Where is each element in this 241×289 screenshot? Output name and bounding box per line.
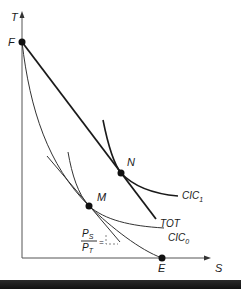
label-e: E xyxy=(158,262,166,274)
label-m: M xyxy=(97,191,107,203)
price-numerator: PS xyxy=(82,228,94,240)
label-cic0: CIC0 xyxy=(168,232,189,245)
point-m xyxy=(86,203,93,210)
s-axis-label: S xyxy=(215,262,223,274)
trade-diagram: T S F N M E TOT CIC1 CIC0 PS PT = xyxy=(0,0,241,280)
t-axis-arrow-icon xyxy=(20,11,25,18)
label-f: F xyxy=(8,36,16,48)
label-cic1: CIC1 xyxy=(182,190,203,203)
point-n xyxy=(118,170,125,177)
cic0-sub: 0 xyxy=(185,238,189,245)
t-axis-label: T xyxy=(11,11,19,23)
s-axis-arrow-icon xyxy=(204,256,211,261)
label-tot: TOT xyxy=(160,218,181,229)
point-e xyxy=(159,255,166,262)
cic1-base: CIC xyxy=(182,190,200,201)
point-f xyxy=(19,39,26,46)
price-equals: = xyxy=(99,238,104,247)
axes xyxy=(20,11,212,261)
cic1-curve xyxy=(103,120,178,196)
bottom-border-bar xyxy=(0,280,241,289)
cic1-sub: 1 xyxy=(199,196,203,203)
cic0-base: CIC xyxy=(168,232,186,243)
price-denominator: PT xyxy=(82,242,94,254)
label-n: N xyxy=(127,156,135,168)
price-ratio: PS PT = xyxy=(81,228,104,254)
price-angle-marker xyxy=(106,235,118,244)
